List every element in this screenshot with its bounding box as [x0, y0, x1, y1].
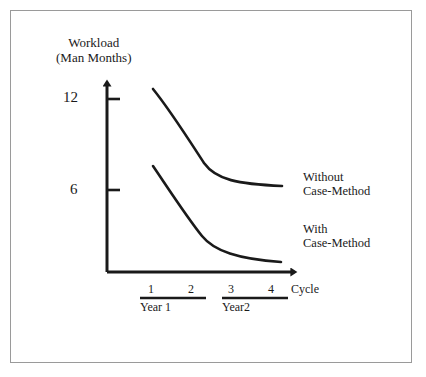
- series-label-without-line2: Case-Method: [303, 184, 370, 198]
- y-tick-label-6: 6: [70, 181, 78, 198]
- y-axis-title-line1: Workload: [68, 35, 119, 50]
- x-tick-label-1: 1: [148, 283, 154, 296]
- x-tick-label-2: 2: [188, 283, 194, 296]
- group-label-year-1: Year 1: [140, 301, 171, 314]
- series-label-with-case-method: With Case-Method: [303, 222, 370, 250]
- series-label-with-line1: With: [303, 222, 328, 236]
- y-axis-title-line2: (Man Months): [56, 51, 131, 66]
- x-tick-label-3: 3: [228, 283, 234, 296]
- y-axis-title: Workload (Man Months): [56, 36, 131, 65]
- series-label-without-case-method: Without Case-Method: [303, 170, 370, 198]
- series-curve-with-case-method: [153, 166, 281, 262]
- series-label-with-line2: Case-Method: [303, 236, 370, 250]
- x-axis-title: Cycle: [291, 283, 319, 296]
- x-tick-label-4: 4: [268, 283, 274, 296]
- series-curve-without-case-method: [153, 89, 282, 186]
- y-tick-label-12: 12: [63, 89, 78, 106]
- group-label-year-2: Year2: [222, 301, 250, 314]
- series-label-without-line1: Without: [303, 170, 343, 184]
